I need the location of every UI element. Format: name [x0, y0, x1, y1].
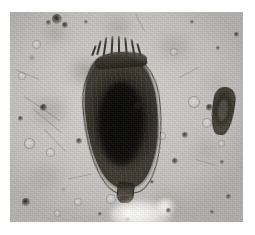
film-grain [10, 12, 243, 222]
micrograph-field [10, 12, 243, 222]
photo-frame [0, 0, 255, 235]
